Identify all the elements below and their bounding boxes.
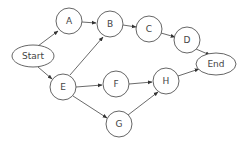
edge-c-d	[161, 33, 175, 37]
node-end-label: End	[207, 59, 224, 69]
node-a: A	[56, 8, 82, 34]
edge-g-h	[128, 92, 158, 115]
node-e-label: E	[60, 82, 66, 92]
node-f: F	[103, 71, 129, 97]
node-e: E	[50, 74, 76, 100]
node-start-label: Start	[22, 51, 44, 61]
node-end: End	[196, 53, 236, 75]
node-d-label: D	[184, 35, 191, 45]
node-c: C	[136, 16, 162, 42]
edge-e-g	[73, 96, 107, 118]
edge-e-f	[76, 85, 102, 87]
edge-h-end	[178, 69, 199, 76]
node-a-label: A	[66, 16, 73, 26]
edge-b-c	[123, 25, 136, 27]
edge-e-b	[70, 37, 103, 75]
node-d: D	[174, 27, 200, 53]
node-g: G	[106, 111, 132, 137]
node-b: B	[97, 11, 123, 37]
node-c-label: C	[146, 24, 152, 34]
edge-start-a	[38, 31, 58, 46]
node-f-label: F	[113, 79, 118, 89]
edge-start-e	[38, 67, 52, 79]
node-start: Start	[12, 45, 54, 67]
node-b-label: B	[107, 19, 113, 29]
edge-f-h	[129, 82, 152, 84]
node-g-label: G	[116, 119, 123, 129]
edge-a-b	[82, 22, 96, 23]
node-h: H	[153, 68, 179, 94]
node-h-label: H	[163, 76, 170, 86]
network-diagram: Start A B C D End E F H G	[0, 0, 247, 148]
